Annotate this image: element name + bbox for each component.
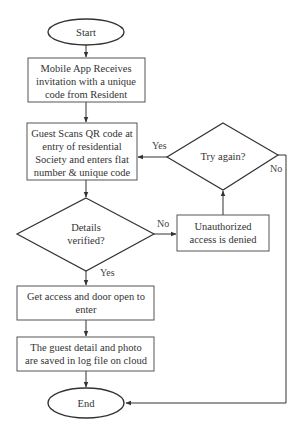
node-unauthorized: Unauthorized access is denied (177, 215, 269, 251)
node-unauthorized-line-2: access is denied (189, 234, 257, 245)
node-log-saved-line-1: The guest detail and photo (30, 342, 141, 353)
node-try-again-label: Try again? (201, 151, 246, 162)
label-try-again-no: No (270, 163, 282, 174)
node-details-verified-line-1: Details (71, 222, 101, 233)
node-receive-invite: Mobile App Receives invitation with a un… (28, 58, 145, 102)
node-receive-invite-line-1: Mobile App Receives (41, 63, 132, 74)
node-details-verified-line-2: verified? (67, 235, 105, 246)
node-try-again: Try again? (167, 123, 278, 190)
label-verified-yes: Yes (100, 267, 115, 278)
flowchart-canvas: Start Mobile App Receives invitation wit… (0, 0, 301, 434)
node-guest-scans: Guest Scans QR code at entry of resident… (27, 123, 137, 180)
node-guest-scans-line-3: Society and enters flat (35, 154, 129, 165)
node-guest-scans-line-2: entry of residential (42, 141, 121, 152)
node-start: Start (48, 19, 124, 45)
node-get-access: Get access and door open to enter (17, 286, 154, 320)
node-log-saved-line-2: are saved in log file on cloud (25, 355, 148, 366)
label-try-again-yes: Yes (152, 140, 167, 151)
node-guest-scans-line-1: Guest Scans QR code at (31, 128, 133, 139)
node-start-label: Start (76, 27, 96, 38)
node-end: End (48, 388, 124, 418)
node-log-saved: The guest detail and photo are saved in … (17, 337, 154, 371)
node-unauthorized-line-1: Unauthorized (194, 221, 252, 232)
node-receive-invite-line-2: invitation with a unique (36, 76, 136, 87)
node-receive-invite-line-3: code from Resident (45, 89, 127, 100)
node-guest-scans-line-4: number & unique code (34, 167, 131, 178)
node-details-verified: Details verified? (17, 198, 154, 271)
node-get-access-line-2: enter (76, 304, 97, 315)
label-verified-no: No (157, 218, 169, 229)
node-get-access-line-1: Get access and door open to (27, 291, 145, 302)
node-end-label: End (78, 398, 96, 409)
